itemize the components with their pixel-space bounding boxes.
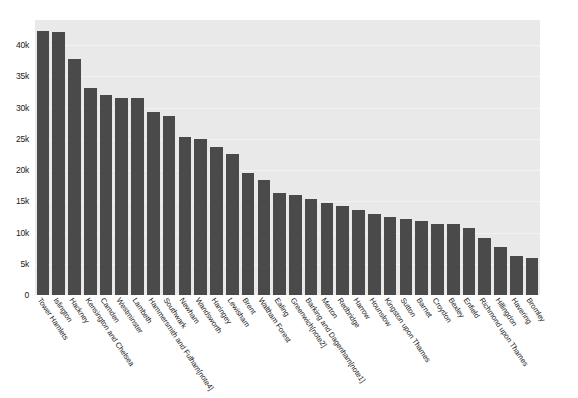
bar (510, 256, 523, 295)
bar (100, 95, 113, 295)
bar (84, 88, 97, 295)
bar (352, 210, 365, 295)
bar (131, 98, 144, 295)
bar (258, 180, 271, 295)
bar (321, 203, 334, 295)
bar (37, 31, 50, 295)
bar (68, 59, 81, 295)
bar (226, 154, 239, 295)
bar (400, 219, 413, 295)
bar (242, 173, 255, 296)
bar (179, 137, 192, 295)
bar (52, 32, 65, 295)
y-tick-label: 40k (16, 40, 29, 50)
plot-area (35, 20, 540, 295)
bar (494, 247, 507, 295)
y-tick-label: 0 (24, 290, 29, 300)
y-tick-label: 25k (16, 134, 29, 144)
bar (415, 221, 428, 295)
bar (431, 224, 444, 295)
bar (289, 195, 302, 295)
bar (447, 224, 460, 295)
bar (526, 258, 539, 296)
bar (368, 214, 381, 295)
bar (147, 112, 160, 295)
x-axis: Tower HamletsIslingtonHackneyKensington … (35, 296, 540, 396)
bar (384, 217, 397, 295)
bar (273, 193, 286, 295)
bar (478, 238, 491, 296)
y-axis: 05k10k15k20k25k30k35k40k (0, 20, 33, 295)
bar (163, 116, 176, 295)
bar (463, 228, 476, 295)
bar (115, 98, 128, 295)
bar-series (35, 20, 540, 295)
bar (194, 139, 207, 295)
y-tick-label: 20k (16, 165, 29, 175)
y-tick-label: 10k (16, 228, 29, 238)
chart-screenshot: 05k10k15k20k25k30k35k40k Tower HamletsIs… (0, 0, 578, 398)
bar (210, 147, 223, 295)
y-tick-label: 30k (16, 103, 29, 113)
bar (305, 199, 318, 295)
y-tick-label: 15k (16, 196, 29, 206)
y-tick-label: 5k (20, 259, 29, 269)
bar (336, 206, 349, 295)
y-tick-label: 35k (16, 71, 29, 81)
